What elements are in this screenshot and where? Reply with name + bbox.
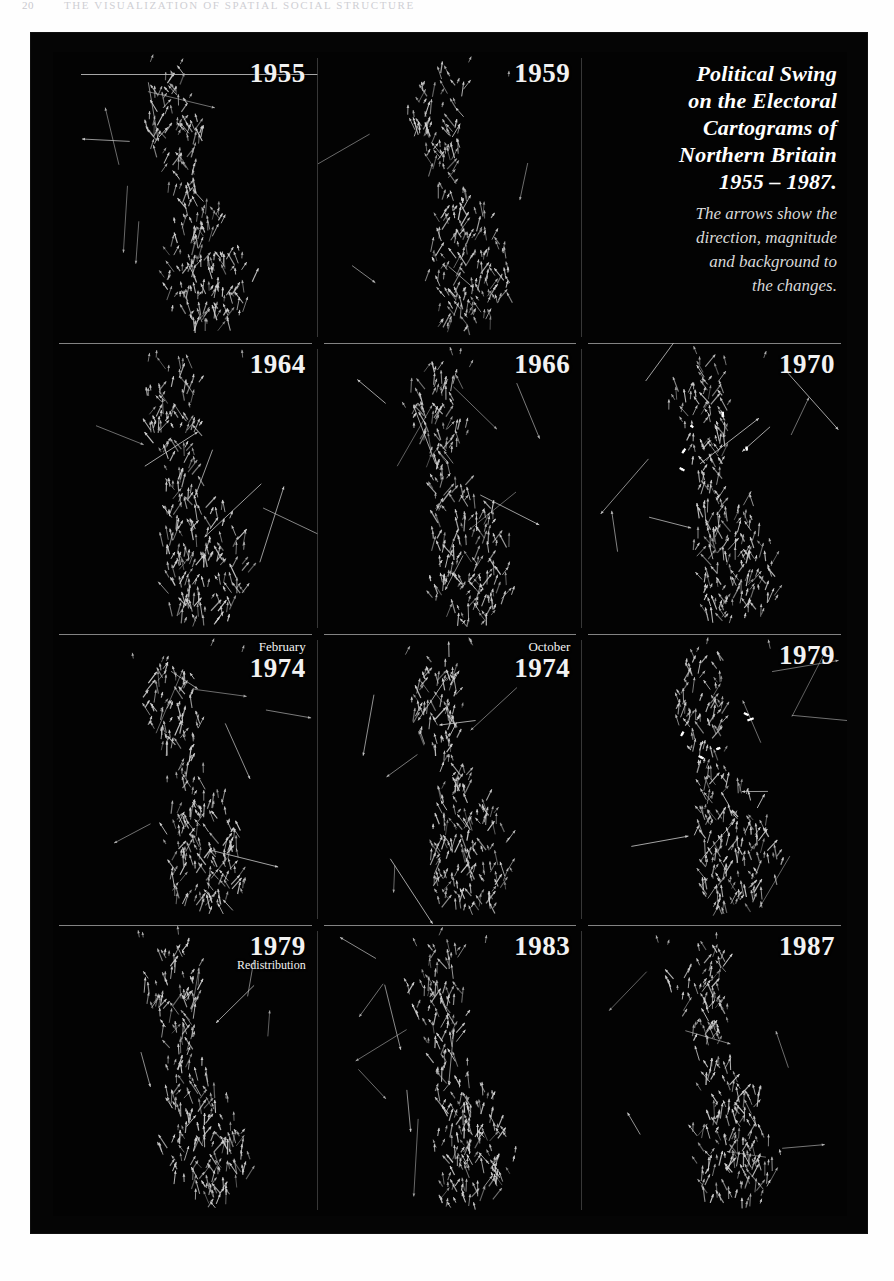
panel-year-label: 1955 <box>250 58 306 88</box>
cartogram-1955 <box>53 52 318 343</box>
panel-year-label: 1979 <box>237 931 306 961</box>
panel-caption-1955: 1955 <box>250 58 306 88</box>
panel-caption-1964: 1964 <box>250 349 306 379</box>
panel-caption-1970: 1970 <box>779 349 835 379</box>
panel-year-label: 1974 <box>250 653 306 683</box>
panel-year-label: 1983 <box>514 931 570 961</box>
figure-plate-inner: 19551959Political Swingon the ElectoralC… <box>53 52 847 1216</box>
panel-caption-1979-redistribution: 1979Redistribution <box>237 931 306 972</box>
cartogram-1987 <box>582 925 847 1216</box>
panel-year-label: 1987 <box>779 931 835 961</box>
panel-caption-1979: 1979 <box>779 640 835 670</box>
panel-year-label: 1966 <box>514 349 570 379</box>
running-head: 20 The Visualization of Spatial Social S… <box>0 0 894 16</box>
running-head-title: The Visualization of Spatial Social Stru… <box>64 0 415 11</box>
cartogram-grid: 19551959Political Swingon the ElectoralC… <box>53 52 847 1216</box>
panel-caption-1974-feb: February1974 <box>250 640 306 683</box>
figure-subtitle-line: The arrows show the <box>605 202 837 226</box>
panel-year-label: 1959 <box>514 58 570 88</box>
panel-month-label: February <box>250 640 306 654</box>
panel-caption-1959: 1959 <box>514 58 570 88</box>
panel-year-label: 1970 <box>779 349 835 379</box>
panel-caption-1987: 1987 <box>779 931 835 961</box>
panel-year-label: 1979 <box>779 640 835 670</box>
cartogram-1959 <box>318 52 583 343</box>
cartogram-cell-title: Political Swingon the ElectoralCartogram… <box>582 52 847 343</box>
figure-subtitle-line: and background to <box>605 250 837 274</box>
figure-subtitle: The arrows show thedirection, magnitudea… <box>605 202 837 298</box>
panel-year-label: 1974 <box>514 653 570 683</box>
panel-caption-1974-oct: October1974 <box>514 640 570 683</box>
panel-caption-1983: 1983 <box>514 931 570 961</box>
page-number: 20 <box>22 0 34 11</box>
panel-month-label: October <box>514 640 570 654</box>
figure-title-line: Cartograms of <box>605 114 837 141</box>
cartogram-cell-1970: 1970 <box>582 343 847 634</box>
figure-title-line: Political Swing <box>605 60 837 87</box>
figure-title-line: 1955 – 1987. <box>605 168 837 195</box>
book-page: 20 The Visualization of Spatial Social S… <box>0 0 894 1281</box>
panel-sublabel: Redistribution <box>237 959 306 972</box>
cartogram-cell-1964: 1964 <box>53 343 318 634</box>
cartogram-cell-1979: 1979 <box>582 634 847 925</box>
cartogram-cell-1959: 1959 <box>318 52 583 343</box>
cartogram-1979 <box>582 634 847 925</box>
figure-subtitle-line: direction, magnitude <box>605 226 837 250</box>
figure-plate: 19551959Political Swingon the ElectoralC… <box>31 33 867 1233</box>
cartogram-cell-1987: 1987 <box>582 925 847 1216</box>
cartogram-1964 <box>53 343 318 634</box>
cartogram-cell-1974-feb: February1974 <box>53 634 318 925</box>
figure-title: Political Swingon the ElectoralCartogram… <box>605 60 837 195</box>
figure-title-line: on the Electoral <box>605 87 837 114</box>
cartogram-cell-1983: 1983 <box>318 925 583 1216</box>
cartogram-1966 <box>318 343 583 634</box>
panel-caption-1966: 1966 <box>514 349 570 379</box>
cartogram-cell-1979-redistribution: 1979Redistribution <box>53 925 318 1216</box>
figure-title-block: Political Swingon the ElectoralCartogram… <box>605 60 837 298</box>
panel-year-label: 1964 <box>250 349 306 379</box>
cartogram-cell-1955: 1955 <box>53 52 318 343</box>
figure-title-line: Northern Britain <box>605 141 837 168</box>
cartogram-cell-1966: 1966 <box>318 343 583 634</box>
cartogram-1983 <box>318 925 583 1216</box>
figure-subtitle-line: the changes. <box>605 274 837 298</box>
cartogram-cell-1974-oct: October1974 <box>318 634 583 925</box>
cartogram-1970 <box>582 343 847 634</box>
